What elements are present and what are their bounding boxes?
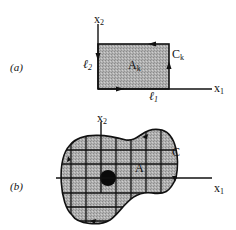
region-ak-label: Ak bbox=[128, 59, 141, 73]
x2-label-b: x2 bbox=[97, 112, 107, 126]
x1-label-a: x1 bbox=[214, 82, 224, 96]
panel-b-label: (b) bbox=[10, 181, 23, 192]
contour-ck-label: Ck bbox=[172, 48, 184, 62]
side-l2-label: ℓ2 bbox=[83, 58, 92, 72]
region-a-fill bbox=[61, 129, 177, 223]
region-a-label: A bbox=[135, 162, 144, 174]
side-l1-label: ℓ1 bbox=[149, 90, 158, 104]
contour-ck-label-text: C bbox=[172, 47, 180, 61]
x1-label-a-sub: 1 bbox=[220, 87, 224, 96]
diagram-canvas bbox=[0, 0, 236, 230]
contour-ck-label-sub: k bbox=[180, 53, 184, 62]
x2-label-b-sub: 2 bbox=[103, 117, 107, 126]
region-ak-label-sub: k bbox=[137, 64, 141, 73]
panel-a-label: (a) bbox=[10, 62, 23, 73]
panel-a bbox=[96, 24, 213, 92]
x1-label-b-sub: 1 bbox=[220, 187, 224, 196]
x2-label-a-sub: 2 bbox=[100, 18, 104, 27]
panel-b bbox=[50, 120, 212, 230]
region-ak-label-text: A bbox=[128, 58, 137, 72]
side-l1-label-sub: 1 bbox=[154, 95, 158, 104]
contour-c-label: C bbox=[172, 146, 180, 158]
x1-label-b: x1 bbox=[214, 182, 224, 196]
x2-label-a: x2 bbox=[94, 13, 104, 27]
side-l2-label-sub: 2 bbox=[88, 63, 92, 72]
